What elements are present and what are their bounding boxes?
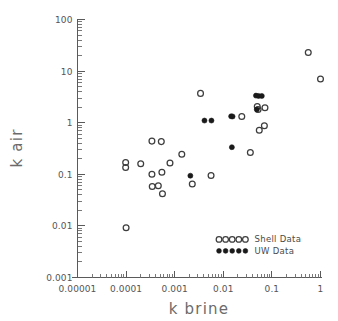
- data-point: [149, 138, 155, 144]
- data-point: [149, 184, 155, 190]
- y-tick-label: 0.1: [58, 170, 73, 180]
- y-tick-label: 0.001: [46, 273, 72, 283]
- data-point: [188, 173, 193, 178]
- data-point: [155, 183, 161, 189]
- data-point: [262, 105, 268, 111]
- chart-legend: Shell DataUW Data: [216, 234, 301, 256]
- data-point: [189, 181, 195, 187]
- x-tick-label: 0.1: [265, 284, 280, 294]
- legend-marker: [217, 249, 222, 254]
- data-point: [138, 161, 144, 167]
- data-point: [160, 191, 166, 197]
- plot-canvas: 0.0010.010.11101000.000010.00010.0010.01…: [0, 0, 338, 321]
- legend-marker: [230, 249, 235, 254]
- legend-marker: [236, 249, 241, 254]
- legend-marker: [229, 237, 235, 243]
- legend-marker: [223, 249, 228, 254]
- data-point: [123, 225, 129, 231]
- data-point: [209, 118, 214, 123]
- data-point: [247, 150, 253, 156]
- data-point: [318, 76, 324, 82]
- data-point: [179, 151, 185, 157]
- legend-marker: [223, 237, 229, 243]
- legend-marker: [243, 237, 249, 243]
- x-tick-label: 0.0001: [110, 284, 142, 294]
- data-point: [149, 171, 155, 177]
- data-point: [230, 114, 235, 119]
- x-tick-label: 1: [318, 284, 324, 294]
- legend-label: UW Data: [255, 246, 295, 256]
- x-tick-label: 0.001: [162, 284, 188, 294]
- data-point: [208, 173, 214, 179]
- series-uw: [188, 93, 264, 178]
- data-point: [239, 114, 245, 120]
- data-point: [259, 93, 264, 98]
- data-point: [256, 127, 262, 133]
- series-shell: [123, 50, 324, 231]
- data-point: [261, 123, 267, 129]
- y-tick-label: 100: [55, 15, 73, 25]
- data-point: [254, 107, 259, 112]
- data-point: [202, 118, 207, 123]
- x-tick-label: 0.00001: [59, 284, 97, 294]
- data-point: [158, 139, 164, 145]
- legend-marker: [243, 249, 248, 254]
- data-point: [167, 160, 173, 166]
- legend-marker: [236, 237, 242, 243]
- y-tick-label: 0.01: [52, 221, 72, 231]
- y-tick-label: 1: [67, 118, 73, 128]
- y-axis-title: k air: [8, 129, 26, 168]
- data-points-group: [123, 50, 324, 231]
- y-tick-label: 10: [61, 67, 73, 77]
- data-point: [198, 90, 204, 96]
- legend-marker: [216, 237, 222, 243]
- scatter-plot-figure: 0.0010.010.11101000.000010.00010.0010.01…: [0, 0, 338, 321]
- data-point: [229, 145, 234, 150]
- x-tick-label: 0.01: [213, 284, 233, 294]
- data-point: [305, 50, 311, 56]
- legend-label: Shell Data: [255, 234, 302, 244]
- data-point: [159, 169, 165, 175]
- x-axis-title: k brine: [169, 300, 229, 318]
